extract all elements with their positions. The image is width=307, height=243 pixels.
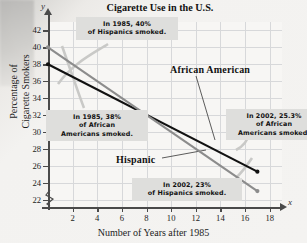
y-axis-title: Percentage of Cigarette Smokers — [8, 32, 31, 152]
callout-line: of African — [256, 120, 292, 128]
callout-line: In 1985, 38% — [73, 113, 121, 121]
callout-line: Americans smoked. — [238, 129, 307, 137]
callout-line: In 2002, 23% — [163, 181, 211, 189]
y-axis-title-line2: Cigarette Smokers — [19, 54, 30, 128]
series-label-african-american: African American — [170, 64, 250, 75]
data-point — [255, 170, 259, 174]
data-point — [255, 189, 259, 193]
callout-hispanic-2002: In 2002, 23%of Hispanics smoked. — [132, 178, 242, 201]
chart-figure: Cigarette Use in the U.S. y x 2224262830… — [0, 0, 307, 243]
callout-african-american-1985: In 1985, 38%of AfricanAmericans smoked. — [46, 110, 148, 141]
data-point — [46, 62, 50, 66]
callout-line: of Hispanics smoked. — [148, 189, 226, 197]
callout-line: of African — [79, 121, 115, 129]
x-axis-title: Number of Years after 1985 — [0, 227, 307, 238]
series-label-hispanic: Hispanic — [116, 154, 155, 165]
y-axis-title-line1: Percentage of — [8, 64, 19, 119]
callout-african-american-2002: In 2002, 25.3%of AfricanAmericans smoked… — [226, 109, 307, 140]
callout-line: In 1985, 40% — [103, 20, 151, 28]
callout-line: In 2002, 25.3% — [246, 112, 301, 120]
callout-line: Americans smoked. — [61, 130, 133, 138]
callout-hispanic-1985: In 1985, 40%of Hispanics smoked. — [76, 17, 178, 40]
callout-line: of Hispanics smoked. — [88, 28, 166, 36]
data-point — [46, 45, 50, 49]
